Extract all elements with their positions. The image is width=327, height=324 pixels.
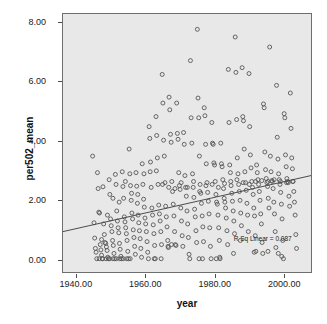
data-point — [268, 45, 272, 49]
data-point — [279, 190, 283, 194]
data-point — [160, 243, 164, 247]
data-point — [108, 192, 112, 196]
data-point — [127, 147, 131, 151]
data-point — [242, 147, 246, 151]
data-point — [248, 153, 252, 157]
x-tick-mark — [76, 274, 77, 278]
data-point — [111, 196, 115, 200]
data-point — [170, 179, 174, 183]
data-point — [251, 192, 255, 196]
data-point — [271, 187, 275, 191]
data-point — [222, 196, 226, 200]
data-point — [161, 101, 165, 105]
data-point — [227, 121, 231, 125]
data-point — [188, 257, 192, 261]
data-point — [168, 132, 172, 136]
data-point — [204, 142, 208, 146]
data-point — [292, 200, 296, 204]
data-point — [196, 96, 200, 100]
data-point — [223, 182, 227, 186]
data-point — [156, 182, 160, 186]
data-point — [153, 243, 157, 247]
data-point — [155, 133, 159, 137]
data-point — [150, 206, 154, 210]
data-point — [294, 233, 298, 237]
data-point — [267, 206, 271, 210]
data-point — [184, 194, 188, 198]
data-point — [198, 182, 202, 186]
data-point — [171, 202, 175, 206]
data-point — [272, 200, 276, 204]
data-point — [190, 141, 194, 145]
data-point — [152, 232, 156, 236]
plot-area: R Sq Linear = 0.087 — [62, 13, 312, 273]
data-point — [142, 205, 146, 209]
data-point — [197, 154, 201, 158]
data-point — [126, 249, 130, 253]
data-point — [242, 119, 246, 123]
data-point — [253, 214, 257, 218]
data-point — [165, 225, 169, 229]
data-point — [210, 182, 214, 186]
data-point — [284, 153, 288, 157]
data-point — [146, 257, 150, 261]
data-point — [207, 212, 211, 216]
x-tick-mark — [145, 274, 146, 278]
data-point — [144, 230, 148, 234]
data-point — [204, 162, 208, 166]
data-point — [132, 236, 136, 240]
data-point — [140, 255, 144, 259]
data-point — [136, 192, 140, 196]
data-point — [247, 182, 251, 186]
data-point — [112, 251, 116, 255]
data-point — [180, 234, 184, 238]
x-tick-label: 1940.00 — [60, 279, 93, 289]
data-point — [195, 241, 199, 245]
data-point — [219, 141, 223, 145]
data-point — [252, 206, 256, 210]
data-point — [147, 125, 151, 129]
x-tick-mark — [215, 274, 216, 278]
data-point — [235, 118, 239, 122]
data-point — [264, 168, 268, 172]
data-point — [93, 236, 97, 240]
data-point — [169, 140, 173, 144]
x-tick-label: 1980.00 — [198, 279, 231, 289]
data-point — [228, 171, 232, 175]
data-point — [124, 232, 128, 236]
data-point — [118, 241, 122, 245]
data-point — [210, 121, 214, 125]
data-point — [148, 136, 152, 140]
data-point — [131, 228, 135, 232]
data-point — [203, 114, 207, 118]
data-point — [202, 240, 206, 244]
data-point — [248, 125, 252, 129]
data-point — [105, 213, 109, 217]
data-point — [261, 102, 265, 106]
data-point — [122, 196, 126, 200]
data-point — [255, 163, 259, 167]
data-point — [151, 213, 155, 217]
data-point — [128, 172, 132, 176]
data-point — [135, 201, 139, 205]
data-point — [162, 154, 166, 158]
data-point — [216, 185, 220, 189]
data-point — [225, 229, 229, 233]
data-point — [101, 185, 105, 189]
data-point — [226, 243, 230, 247]
y-tick-label: 0.00 — [0, 255, 46, 265]
data-point — [223, 200, 227, 204]
data-point — [159, 230, 163, 234]
data-point — [116, 226, 120, 230]
data-point — [222, 187, 226, 191]
x-tick-label: 1960.00 — [129, 279, 162, 289]
data-point — [263, 150, 267, 154]
data-point — [121, 185, 125, 189]
data-point — [186, 222, 190, 226]
data-point — [259, 222, 263, 226]
data-point — [102, 233, 106, 237]
data-point — [290, 167, 294, 171]
data-point — [206, 190, 210, 194]
data-point — [134, 171, 138, 175]
data-point — [139, 246, 143, 250]
